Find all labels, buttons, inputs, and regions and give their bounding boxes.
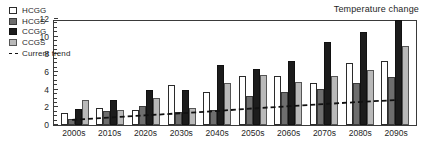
legend-item-hcgg: HCGG	[9, 6, 70, 15]
x-tick-label: 2090s	[378, 128, 414, 138]
y-tick-mark	[54, 93, 57, 94]
y-tick-label: 6	[44, 67, 54, 77]
legend-item-label: Current trend	[22, 49, 70, 58]
y-tick-mark	[54, 84, 57, 85]
plot-area: 024681012	[53, 20, 417, 126]
legend-item-ccgs: CCGS	[9, 38, 70, 47]
x-tick-label: 2070s	[307, 128, 343, 138]
x-tick-label: 2000s	[56, 128, 92, 138]
y-tick-mark	[54, 67, 57, 68]
swatch-hcgg-icon	[9, 7, 17, 14]
swatch-ccgg-icon	[9, 28, 17, 35]
x-axis-tick-labels: 2000s2010s2020s2030s2040s2050s2060s2070s…	[53, 128, 417, 138]
x-tick-label: 2040s	[199, 128, 235, 138]
current-trend-line	[54, 21, 416, 126]
chart-legend: HCGGHCGSCCGGCCGSCurrent trend	[9, 6, 70, 59]
legend-item-label: CCGG	[22, 27, 46, 36]
y-tick-mark	[54, 75, 57, 76]
legend-item-label: CCGS	[22, 38, 46, 47]
y-tick-mark	[54, 71, 58, 72]
y-tick-mark	[54, 89, 58, 90]
trend-polyline	[72, 100, 398, 120]
x-tick-label: 2020s	[128, 128, 164, 138]
y-tick-mark	[54, 80, 57, 81]
x-tick-label: 2050s	[235, 128, 271, 138]
x-tick-label: 2010s	[92, 128, 128, 138]
legend-item-hcgs: HCGS	[9, 17, 70, 26]
legend-item-label: HCGG	[22, 6, 46, 15]
y-tick-mark	[54, 120, 57, 121]
temperature-change-chart: Temperature change Temperature change (°…	[0, 0, 427, 159]
y-tick-mark	[54, 106, 58, 107]
y-tick-label: 2	[44, 102, 54, 112]
x-tick-label: 2080s	[342, 128, 378, 138]
y-tick-mark	[54, 115, 57, 116]
legend-item-trend: Current trend	[9, 48, 70, 57]
y-tick-mark	[54, 124, 58, 125]
x-tick-label: 2060s	[271, 128, 307, 138]
chart-title: Temperature change	[334, 4, 419, 14]
swatch-hcgs-icon	[9, 18, 17, 25]
y-tick-mark	[54, 98, 57, 99]
y-tick-label: 4	[44, 85, 54, 95]
y-tick-mark	[54, 111, 57, 112]
y-tick-mark	[54, 102, 57, 103]
legend-item-label: HCGS	[22, 17, 46, 26]
dashed-line-icon	[9, 50, 17, 57]
y-tick-mark	[54, 62, 57, 63]
legend-item-ccgg: CCGG	[9, 27, 70, 36]
swatch-ccgs-icon	[9, 39, 17, 46]
x-tick-label: 2030s	[163, 128, 199, 138]
